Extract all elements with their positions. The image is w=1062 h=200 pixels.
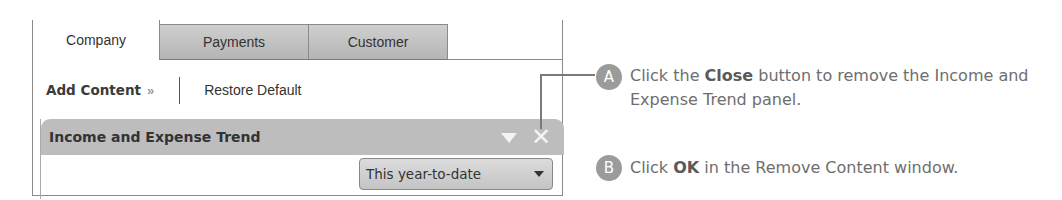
panel-header: Income and Expense Trend ✕ bbox=[41, 119, 564, 155]
close-icon[interactable]: ✕ bbox=[530, 126, 552, 148]
tab-customer[interactable]: Customer bbox=[308, 24, 448, 60]
step-b-instruction: Click OK in the Remove Content window. bbox=[630, 156, 1060, 180]
income-expense-panel: Income and Expense Trend ✕ This year-to-… bbox=[40, 119, 563, 199]
period-select[interactable]: This year-to-date bbox=[359, 158, 553, 190]
chevron-down-icon bbox=[534, 171, 544, 177]
callout-line bbox=[540, 74, 542, 129]
chevron-right-icon[interactable]: » bbox=[147, 83, 154, 98]
tab-strip-baseline bbox=[447, 59, 563, 60]
badge-letter: A bbox=[604, 68, 614, 86]
step-text-bold: Close bbox=[705, 66, 754, 85]
tab-payments[interactable]: Payments bbox=[159, 24, 309, 60]
period-select-value: This year-to-date bbox=[366, 166, 481, 182]
panel-title: Income and Expense Trend bbox=[49, 129, 261, 145]
tab-label: Company bbox=[66, 32, 126, 48]
tab-company[interactable]: Company bbox=[32, 20, 160, 60]
step-text-suffix: in the Remove Content window. bbox=[699, 158, 958, 177]
tab-label: Customer bbox=[348, 34, 409, 50]
toolbar-divider bbox=[179, 77, 180, 104]
step-text-prefix: Click bbox=[630, 158, 673, 177]
tab-label: Payments bbox=[203, 34, 265, 50]
restore-default-link[interactable]: Restore Default bbox=[204, 82, 301, 98]
step-badge-a: A bbox=[596, 64, 622, 90]
step-text-bold: OK bbox=[673, 158, 699, 177]
step-text-prefix: Click the bbox=[630, 66, 705, 85]
add-content-link[interactable]: Add Content bbox=[46, 82, 141, 98]
step-a-instruction: Click the Close button to remove the Inc… bbox=[630, 64, 1050, 112]
badge-letter: B bbox=[604, 159, 614, 177]
step-badge-b: B bbox=[596, 155, 622, 181]
callout-line bbox=[540, 74, 595, 76]
triangle-down-icon[interactable] bbox=[501, 133, 517, 143]
content-toolbar: Add Content » Restore Default bbox=[46, 76, 301, 104]
